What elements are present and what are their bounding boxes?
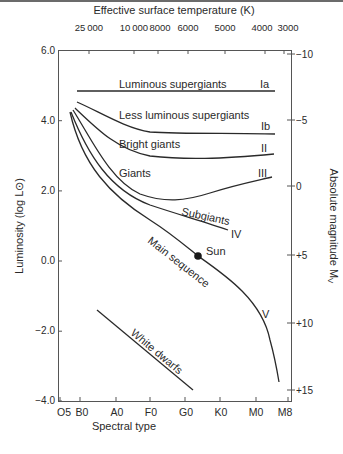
y2-tick-label: −10 bbox=[296, 49, 313, 60]
label-white-dwarfs: White dwarfs bbox=[129, 326, 186, 376]
label-class-ii: II bbox=[261, 142, 267, 154]
x-tick-label: O5 bbox=[57, 406, 71, 418]
luminosity-curves bbox=[70, 91, 279, 390]
top-tick-labels: 25 000 10 000 8000 6000 5000 4000 3000 bbox=[75, 22, 299, 33]
curve-v bbox=[70, 112, 279, 382]
x-axis-title: Spectral type bbox=[92, 420, 156, 432]
label-less-luminous-supergiants: Less luminous supergiants bbox=[119, 109, 250, 121]
y-tick-label: 0.0 bbox=[41, 255, 55, 266]
sun-marker bbox=[194, 252, 202, 260]
label-subgiants: Subgiants bbox=[181, 205, 232, 227]
x-tick-label: M0 bbox=[249, 406, 264, 418]
top-tick-label: 25 000 bbox=[75, 22, 103, 33]
top-tick-label: 10 000 bbox=[120, 22, 148, 33]
label-class-iv: IV bbox=[231, 228, 242, 240]
y2-tick-label: +5 bbox=[296, 250, 308, 261]
label-class-v: V bbox=[262, 308, 270, 320]
label-class-ib: Ib bbox=[261, 120, 270, 132]
label-giants: Giants bbox=[119, 167, 151, 179]
y2-tick-label: −5 bbox=[296, 115, 308, 126]
label-class-iii: III bbox=[258, 167, 267, 179]
hr-diagram: Effective surface temperature (K) 25 000… bbox=[0, 0, 343, 454]
y2-tick-label: 0 bbox=[296, 181, 302, 192]
label-main-sequence: Main sequence bbox=[146, 234, 212, 289]
top-tick-label: 3000 bbox=[277, 22, 298, 33]
y2-tick-label: +10 bbox=[296, 318, 313, 329]
bottom-tick-labels: O5 B0 A0 F0 G0 K0 M0 M8 bbox=[57, 406, 292, 418]
x-tick-label: M8 bbox=[278, 406, 293, 418]
y2-axis-title: Absolute magnitude MV bbox=[326, 169, 340, 284]
y-tick-label: 4.0 bbox=[41, 115, 55, 126]
curve-white-dwarfs bbox=[97, 310, 193, 390]
y-tick-label: −2.0 bbox=[35, 325, 55, 336]
x-tick-label: F0 bbox=[145, 406, 157, 418]
top-tick-label: 8000 bbox=[149, 22, 170, 33]
label-sun: Sun bbox=[206, 245, 226, 257]
top-axis-title: Effective surface temperature (K) bbox=[93, 4, 254, 16]
x-tick-label: G0 bbox=[179, 406, 193, 418]
curve-labels: Luminous supergiants Ia Less luminous su… bbox=[119, 78, 270, 377]
right-tick-labels: −10 −5 0 +5 +10 +15 bbox=[296, 49, 313, 396]
x-tick-label: B0 bbox=[76, 406, 89, 418]
top-tick-label: 4000 bbox=[251, 22, 272, 33]
label-luminous-supergiants: Luminous supergiants bbox=[119, 78, 227, 90]
y-axis-title: Luminosity (log L⊙) bbox=[13, 178, 25, 274]
label-bright-giants: Bright giants bbox=[119, 138, 181, 150]
y-tick-label: −4.0 bbox=[35, 395, 55, 406]
y2-tick-label: +15 bbox=[296, 385, 313, 396]
label-class-ia: Ia bbox=[260, 78, 270, 90]
top-tick-label: 5000 bbox=[214, 22, 235, 33]
x-tick-label: K0 bbox=[215, 406, 228, 418]
y-tick-label: 2.0 bbox=[41, 185, 55, 196]
plot-frame bbox=[59, 51, 292, 402]
top-tick-label: 6000 bbox=[177, 22, 198, 33]
y-tick-label: 6.0 bbox=[41, 45, 55, 56]
curve-iii bbox=[73, 110, 272, 200]
x-tick-label: A0 bbox=[111, 406, 124, 418]
left-tick-labels: 6.0 4.0 2.0 0.0 −2.0 −4.0 bbox=[35, 45, 55, 406]
